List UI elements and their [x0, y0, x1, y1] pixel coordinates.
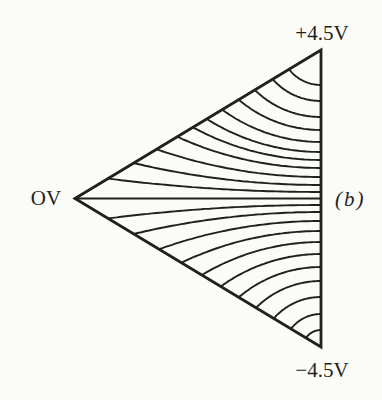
equipotential-line — [291, 314, 321, 329]
equipotential-line — [239, 100, 321, 130]
equipotential-line — [273, 79, 321, 101]
equipotential-line — [256, 281, 321, 308]
left-voltage-label: OV — [24, 186, 68, 210]
equipotential-line — [159, 221, 321, 249]
equipotential-line — [289, 69, 321, 85]
equipotential-line — [306, 330, 321, 338]
equipotential-line — [207, 119, 321, 152]
figure-panel: +4.5V OV −4.5V (b) — [0, 0, 382, 400]
equipotential-line — [193, 127, 321, 160]
figure-caption: (b) — [335, 187, 366, 211]
equipotential-line — [255, 90, 321, 117]
bottom-voltage-label: −4.5V — [288, 358, 356, 382]
equipotential-line — [222, 110, 321, 142]
top-voltage-label: +4.5V — [289, 21, 355, 45]
